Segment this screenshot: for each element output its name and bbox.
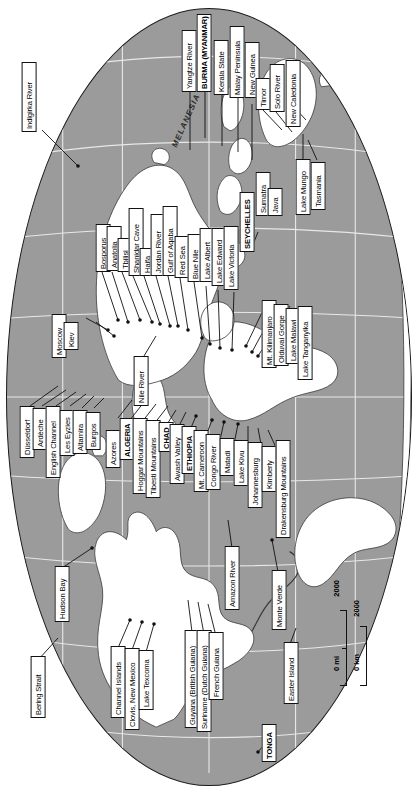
label-lake-kivu[interactable]: Lake Kivu (234, 440, 249, 486)
label-solo-river[interactable]: Solo River (270, 64, 285, 112)
scale-bar-km-tick-0 (360, 685, 367, 686)
label-hudson-bay[interactable]: Hudson Bay (55, 566, 70, 622)
scale-label-km-max: 2000 (352, 600, 361, 617)
scale-bar-km-line (366, 626, 367, 686)
scale-bar-miles-tick-mid (342, 648, 347, 649)
label-easter-island[interactable]: Easter Island (284, 642, 299, 704)
label-monte-verde[interactable]: Monte Verde (272, 570, 287, 630)
label-lake-mungo[interactable]: Lake Mungo (296, 159, 311, 215)
label-channel-islands[interactable]: Channel Islands (111, 646, 126, 718)
label-nile-river[interactable]: Nile River (134, 356, 149, 406)
label-azores[interactable]: Azores (106, 430, 121, 468)
label-indigirka-river[interactable]: Indigirka River (22, 62, 37, 132)
label-burma-myanmar[interactable]: BURMA (MYANMAR) (197, 14, 212, 92)
label-johannesburg[interactable]: Johannesburg (248, 442, 263, 508)
label-french-guiana[interactable]: French Guiana (209, 632, 224, 700)
label-new-caledonia[interactable]: New Caledonia (286, 60, 301, 127)
label-bering-strait[interactable]: Bering Strait (31, 656, 46, 718)
scale-label-km-zero: 0 km (352, 654, 361, 671)
label-congo-river[interactable]: Congo River (206, 434, 221, 490)
label-amazon-river[interactable]: Amazon River (225, 546, 240, 610)
label-lake-tanganyika[interactable]: Lake Tanganyika (298, 306, 313, 380)
label-yangtze-river[interactable]: Yangtze River (182, 30, 197, 92)
label-english-channel[interactable]: English Channel (46, 406, 61, 478)
label-kimberly[interactable]: Kimberly (262, 446, 277, 492)
label-java[interactable]: Java (268, 188, 283, 216)
label-malay-peninsula[interactable]: Malay Peninsula (230, 26, 245, 98)
label-tonga[interactable]: TONGA (262, 724, 277, 762)
label-tasmania[interactable]: Tasmania (311, 162, 326, 210)
label-seychelles[interactable]: SEYCHELLES (240, 192, 255, 252)
label-matadi[interactable]: Matadi (220, 438, 235, 476)
scale-bar-km-tick-max (360, 626, 367, 627)
scale-label-miles-max: 2000 (332, 580, 341, 597)
label-kerala-state[interactable]: Kerala State (214, 40, 229, 95)
label-burgos[interactable]: Burgos (86, 412, 101, 450)
label-timor[interactable]: Timor (256, 78, 271, 110)
world-map-figure: MELANESIA POLYNESIA (0, 0, 418, 794)
label-kiev[interactable]: Kiev (64, 322, 79, 350)
scale-bar-miles-tick-max (340, 610, 347, 611)
label-clovis-new-mexico[interactable]: Clovis, New Mexico (125, 648, 140, 730)
scale-bar-miles-tick-0 (340, 685, 347, 686)
label-lake-texcoma[interactable]: Lake Texcoma (139, 650, 154, 710)
scale-bar: 0 mi 2000 0 km 2000 (318, 596, 388, 706)
scale-label-miles-zero: 0 mi (332, 656, 341, 671)
label-lake-victoria[interactable]: Lake Victoria (224, 226, 239, 290)
label-drakensburg-mountains[interactable]: Drakensburg Mountains (276, 440, 291, 538)
